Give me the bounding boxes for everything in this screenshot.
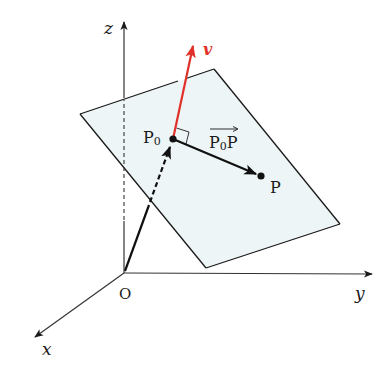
y-axis xyxy=(124,273,372,274)
normal-v-label: v xyxy=(203,40,213,59)
point-p xyxy=(257,172,264,179)
origin-label: O xyxy=(119,285,131,303)
point-p0 xyxy=(169,135,176,142)
y-axis-label: y xyxy=(354,283,365,303)
position-vector-solid xyxy=(125,205,149,271)
diagram-svg: z y x O P0 P v P0P xyxy=(0,0,392,376)
x-axis xyxy=(35,273,124,337)
diagram-canvas: z y x O P0 P v P0P xyxy=(0,0,392,376)
p-label: P xyxy=(270,178,281,197)
plane xyxy=(80,69,340,268)
z-axis-label: z xyxy=(103,18,114,38)
x-axis-label: x xyxy=(42,339,52,359)
